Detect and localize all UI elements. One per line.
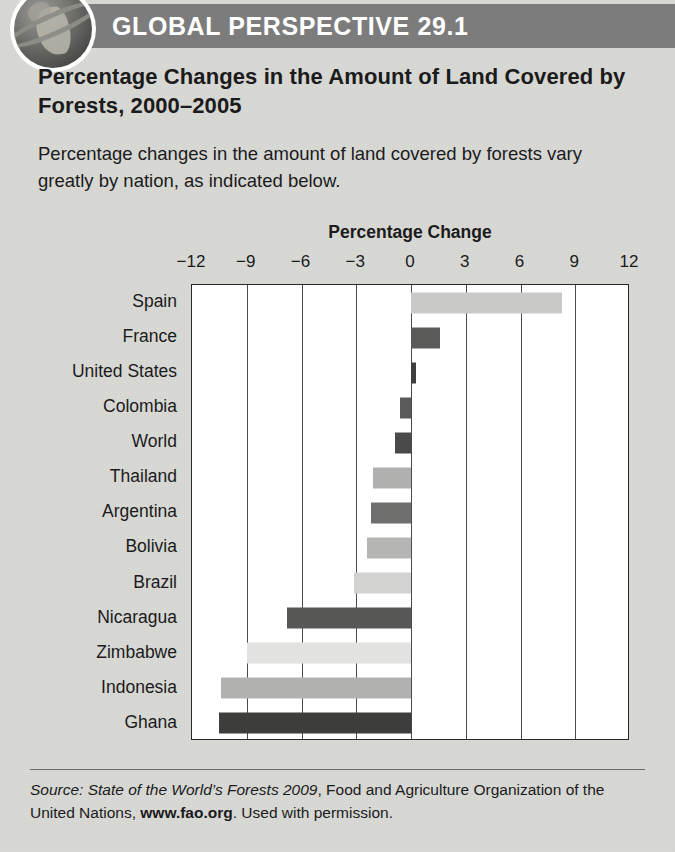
bar-row xyxy=(192,530,628,565)
bar-bolivia xyxy=(367,537,411,558)
bar-row xyxy=(192,285,628,320)
bar-ghana xyxy=(219,713,411,734)
x-tick-label: −3 xyxy=(346,252,365,272)
category-label-world: World xyxy=(0,424,186,459)
category-labels: SpainFranceUnited StatesColombiaWorldTha… xyxy=(0,284,186,740)
category-label-thailand: Thailand xyxy=(0,459,186,494)
bar-argentina xyxy=(371,502,411,523)
category-label-indonesia: Indonesia xyxy=(0,670,186,705)
description-text: Percentage changes in the amount of land… xyxy=(38,140,638,194)
category-label-zimbabwe: Zimbabwe xyxy=(0,635,186,670)
bar-chart: Percentage Change −12−9−6−3036912 SpainF… xyxy=(0,222,675,762)
plot-area xyxy=(191,284,629,740)
bar-france xyxy=(411,327,440,348)
bar-row xyxy=(192,390,628,425)
category-label-nicaragua: Nicaragua xyxy=(0,600,186,635)
category-label-colombia: Colombia xyxy=(0,389,186,424)
bar-row xyxy=(192,671,628,706)
x-tick-label: 6 xyxy=(515,252,524,272)
bar-world xyxy=(395,432,411,453)
x-axis-tick-labels: −12−9−6−3036912 xyxy=(0,252,675,276)
header-band: GLOBAL PERSPECTIVE 29.1 xyxy=(76,4,675,48)
source-divider xyxy=(30,769,645,770)
bar-row xyxy=(192,636,628,671)
category-label-spain: Spain xyxy=(0,284,186,319)
globe-sphere xyxy=(14,0,92,68)
source-link[interactable]: www.fao.org xyxy=(140,804,232,821)
bar-row xyxy=(192,425,628,460)
category-label-bolivia: Bolivia xyxy=(0,529,186,564)
x-tick-label: 0 xyxy=(405,252,414,272)
bar-row xyxy=(192,355,628,390)
bar-row xyxy=(192,706,628,741)
bar-zimbabwe xyxy=(247,643,411,664)
bar-row xyxy=(192,495,628,530)
source-suffix-part: . Used with permission. xyxy=(233,804,393,821)
category-label-argentina: Argentina xyxy=(0,494,186,529)
bar-indonesia xyxy=(221,678,411,699)
bar-rows xyxy=(192,285,628,739)
x-tick-label: 12 xyxy=(620,252,639,272)
category-label-france: France xyxy=(0,319,186,354)
x-tick-label: −12 xyxy=(177,252,206,272)
source-note: Source: State of the World’s Forests 200… xyxy=(30,778,648,824)
bar-row xyxy=(192,601,628,636)
category-label-united-states: United States xyxy=(0,354,186,389)
x-tick-label: 9 xyxy=(570,252,579,272)
x-tick-label: 3 xyxy=(460,252,469,272)
bar-thailand xyxy=(373,467,411,488)
page-title: Percentage Changes in the Amount of Land… xyxy=(38,62,638,120)
chart-axis-title: Percentage Change xyxy=(191,222,629,243)
bar-brazil xyxy=(354,573,411,594)
bar-row xyxy=(192,320,628,355)
x-tick-label: −6 xyxy=(291,252,310,272)
badge-title: GLOBAL PERSPECTIVE 29.1 xyxy=(112,12,469,41)
bar-nicaragua xyxy=(287,608,411,629)
bar-colombia xyxy=(400,397,411,418)
global-perspective-figure: GLOBAL PERSPECTIVE 29.1 Percentage Chang… xyxy=(0,0,675,852)
bar-row xyxy=(192,460,628,495)
category-label-ghana: Ghana xyxy=(0,705,186,740)
category-label-brazil: Brazil xyxy=(0,565,186,600)
bar-united-states xyxy=(411,362,416,383)
x-tick-label: −9 xyxy=(236,252,255,272)
bar-spain xyxy=(411,292,562,313)
bar-row xyxy=(192,566,628,601)
source-italic-part: Source: State of the World’s Forests 200… xyxy=(30,781,317,798)
